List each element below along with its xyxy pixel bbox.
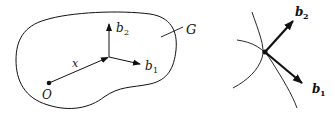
- basis-b2-label-left: b 2: [116, 21, 129, 37]
- origin-label: O: [42, 88, 52, 102]
- position-vector-label: x: [72, 57, 79, 70]
- svg-text:b: b: [116, 21, 124, 35]
- basis-vector-b1-right: [265, 52, 302, 83]
- diagram-canvas: G O x b 2 b 1 b 2 b 1: [0, 0, 335, 119]
- right-figure: b 2 b 1: [233, 5, 326, 108]
- region-G-label: G: [186, 22, 196, 37]
- svg-text:1: 1: [153, 66, 158, 75]
- basis-b1-label-left: b 1: [145, 59, 158, 75]
- svg-text:2: 2: [303, 11, 309, 21]
- basis-b2-label-right: b 2: [295, 5, 309, 21]
- svg-text:b: b: [145, 59, 153, 73]
- svg-text:2: 2: [124, 28, 129, 37]
- region-G-leader-line: [161, 27, 183, 37]
- coordinate-curve-1: [233, 12, 263, 88]
- basis-vector-b2-right: [265, 21, 293, 52]
- position-vector-x: [49, 58, 108, 84]
- left-figure: G O x b 2 b 1: [16, 12, 196, 108]
- basis-vector-b1-left: [109, 57, 140, 64]
- basis-b1-label-right: b 1: [312, 82, 326, 98]
- svg-text:1: 1: [320, 88, 326, 98]
